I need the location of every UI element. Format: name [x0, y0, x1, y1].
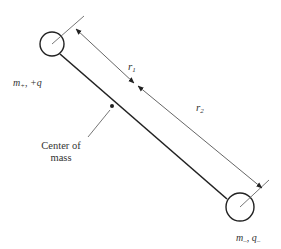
- r2-label: r2: [196, 101, 204, 115]
- bottom-mass-label: m–, q–: [236, 232, 261, 245]
- dipole-diagram: m+, +q r1 r2 Center of mass m–, q–: [0, 0, 281, 249]
- top-mass-label: m+, +q: [13, 77, 42, 90]
- center-of-mass-label-line1: Center of: [41, 140, 81, 151]
- center-of-mass-dot: [110, 104, 114, 108]
- center-of-mass-label-line2: mass: [51, 152, 72, 163]
- top-tick-line: [52, 16, 84, 44]
- rod: [60, 54, 227, 199]
- r1-label: r1: [128, 60, 136, 74]
- center-of-mass-leader: [88, 110, 110, 137]
